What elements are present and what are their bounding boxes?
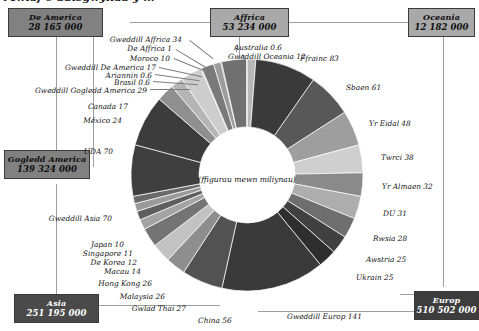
slice-label-de-affrica: De Affrica 1 — [0, 45, 172, 52]
callout-affrica-name: Affrica — [234, 13, 265, 22]
slice-label-gweddill-gogledd-america: Gweddill Gogledd America 29 — [0, 87, 147, 94]
slice-label-de-korea: De Korea 12 — [0, 259, 137, 266]
callout-oceania[interactable]: Oceania 12 182 000 — [408, 8, 475, 37]
slice-label-mexico: México 24 — [0, 117, 122, 124]
slice-label-singapore: Singapore 11 — [0, 250, 133, 257]
slice-label-japan: Japan 10 — [0, 241, 124, 248]
slice-label-china: China 56 — [198, 317, 232, 324]
callout-de-america-name: De America — [29, 13, 82, 22]
slice-label-australia: Australia 0.6 — [234, 44, 282, 51]
connector-oceania-drop — [443, 37, 444, 287]
callout-gogledd-america-value: 139 324 000 — [17, 165, 77, 175]
slice-label-gweddill-europ: Gweddill Europ 141 — [287, 313, 362, 320]
slice-label-gwlad-thai: Gwlad Thai 27 — [0, 305, 186, 312]
callout-oceania-name: Oceania — [423, 13, 460, 22]
callout-europ-name: Europ — [433, 296, 461, 305]
callout-gogledd-america-name: Gogledd America — [8, 155, 86, 164]
page-title: Mwiaf o ddisgwyliad y ... — [4, 0, 155, 4]
slice-label-macau: Macau 14 — [0, 268, 141, 275]
leader-gweddill-gogledd-america — [150, 89, 190, 90]
callout-de-america-value: 28 165 000 — [28, 23, 82, 33]
connector-affrica — [288, 22, 408, 23]
slice-label-canada: Canada 17 — [0, 103, 128, 110]
callout-de-america[interactable]: De America 28 165 000 — [8, 8, 103, 37]
slice-label-awstria: Awstria 25 — [366, 256, 406, 263]
chart-canvas: Mwiaf o ddisgwyliad y ... De America 28 … — [0, 0, 479, 331]
slice-label-moroco: Moroco 10 — [0, 55, 170, 62]
slice-label-gweddill-oceania: Gweddill Oceania 12 — [228, 53, 306, 60]
slice-label-gweddill-affrica: Gweddill Affrica 34 — [0, 36, 182, 43]
slice-label-malaysia: Malaysia 26 — [0, 293, 165, 300]
slice-label-du: DU 31 — [383, 210, 407, 217]
slice-label-hong-kong: Hong Kong 26 — [0, 280, 152, 287]
slice-label-ukrain: Ukrain 25 — [356, 274, 394, 281]
leader-gweddill-affrica — [189, 40, 213, 59]
slice-label-rwsia: Rwsia 28 — [373, 235, 407, 242]
callout-oceania-value: 12 182 000 — [414, 23, 468, 33]
donut-center-note: (ffigurau mewn miliynau) — [131, 175, 363, 184]
slice-label-yr-eidal: Yr Eidal 48 — [369, 120, 411, 127]
slice-label-gweddill-asia: Gweddill Asia 70 — [0, 215, 112, 222]
slice-label-uda: UDA 70 — [0, 148, 113, 155]
connector-asia-drop — [56, 184, 57, 295]
slice-label-twrci: Twrci 38 — [381, 154, 414, 161]
slice-label-yr-almaen: Yr Almaen 32 — [382, 183, 433, 190]
callout-europ[interactable]: Europ 510 502 000 — [414, 291, 479, 320]
callout-affrica[interactable]: Affrica 53 234 000 — [210, 8, 289, 37]
callout-europ-value: 510 502 000 — [416, 306, 476, 316]
slice-label-sbaen: Sbaen 61 — [346, 84, 381, 91]
callout-affrica-value: 53 234 000 — [222, 23, 276, 33]
donut-chart: (ffigurau mewn miliynau) — [131, 59, 363, 291]
